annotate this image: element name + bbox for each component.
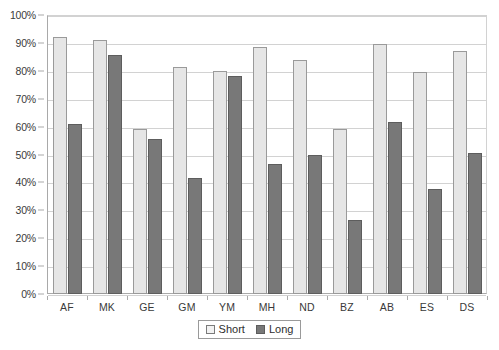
y-tick-label: 30%: [16, 204, 36, 216]
bar-chart: 0%10%20%30%40%50%60%70%80%90%100% AFMKGE…: [0, 0, 499, 350]
x-tick-label-mh: MH: [259, 301, 276, 313]
bar-nd-long[interactable]: [308, 155, 322, 295]
x-tick-mark: [407, 296, 408, 300]
bar-group-ge: [127, 15, 167, 294]
y-tick-label: 100%: [10, 9, 36, 21]
legend: ShortLong: [0, 320, 499, 339]
bar-mk-long[interactable]: [108, 55, 122, 294]
y-tick-label: 20%: [16, 232, 36, 244]
x-tick-mark: [487, 296, 488, 300]
x-tick-mark: [367, 296, 368, 300]
bar-ab-long[interactable]: [388, 122, 402, 294]
y-tick-label: 90%: [16, 37, 36, 49]
legend-swatch-long: [256, 325, 265, 334]
x-tick-mark: [207, 296, 208, 300]
y-tick-label: 60%: [16, 121, 36, 133]
y-tick-label: 10%: [16, 260, 36, 272]
legend-label: Long: [269, 323, 293, 335]
bar-group-nd: [287, 15, 327, 294]
bar-group-mk: [87, 15, 127, 294]
x-tick-mark: [447, 296, 448, 300]
x-tick-mark: [327, 296, 328, 300]
bars-layer: [47, 15, 487, 294]
y-tick-mark: [38, 182, 44, 183]
bar-af-short[interactable]: [53, 37, 67, 294]
x-tick-label-bz: BZ: [340, 301, 354, 313]
y-tick-mark: [38, 238, 44, 239]
legend-label: Short: [219, 323, 245, 335]
y-tick-mark: [38, 42, 44, 43]
y-tick-label: 50%: [16, 149, 36, 161]
x-tick-label-nd: ND: [299, 301, 315, 313]
x-axis: AFMKGEGMYMMHNDBZABESDS: [47, 296, 487, 316]
bar-mh-long[interactable]: [268, 164, 282, 294]
x-tick-label-gm: GM: [178, 301, 195, 313]
bar-ab-short[interactable]: [373, 44, 387, 294]
x-tick-mark: [287, 296, 288, 300]
bar-ds-long[interactable]: [468, 153, 482, 294]
x-tick-label-ab: AB: [380, 301, 394, 313]
x-tick-mark: [87, 296, 88, 300]
bar-ds-short[interactable]: [453, 51, 467, 294]
y-tick-mark: [38, 70, 44, 71]
bar-group-bz: [327, 15, 367, 294]
bar-group-ab: [367, 15, 407, 294]
legend-box: ShortLong: [198, 320, 302, 339]
y-tick-mark: [38, 154, 44, 155]
y-tick-mark: [38, 266, 44, 267]
bar-bz-long[interactable]: [348, 220, 362, 294]
bar-af-long[interactable]: [68, 124, 82, 294]
x-tick-label-ym: YM: [219, 301, 235, 313]
bar-group-gm: [167, 15, 207, 294]
bar-group-ds: [447, 15, 487, 294]
bar-mk-short[interactable]: [93, 40, 107, 294]
x-tick-label-af: AF: [60, 301, 74, 313]
y-tick-mark: [38, 294, 44, 295]
bar-es-short[interactable]: [413, 72, 427, 294]
bar-gm-long[interactable]: [188, 178, 202, 294]
y-tick-mark: [38, 126, 44, 127]
y-tick-mark: [38, 210, 44, 211]
y-tick-label: 80%: [16, 65, 36, 77]
bar-mh-short[interactable]: [253, 47, 267, 294]
y-axis: 0%10%20%30%40%50%60%70%80%90%100%: [0, 0, 47, 310]
y-tick-label: 70%: [16, 93, 36, 105]
y-tick-mark: [38, 15, 44, 16]
legend-entry-short[interactable]: Short: [206, 323, 245, 335]
bar-group-mh: [247, 15, 287, 294]
x-tick-mark: [247, 296, 248, 300]
bar-group-af: [47, 15, 87, 294]
bar-ym-long[interactable]: [228, 76, 242, 294]
x-tick-label-ds: DS: [460, 301, 475, 313]
bar-ge-long[interactable]: [148, 139, 162, 294]
legend-entry-long[interactable]: Long: [256, 323, 293, 335]
x-tick-label-ge: GE: [139, 301, 155, 313]
bar-gm-short[interactable]: [173, 67, 187, 294]
bar-nd-short[interactable]: [293, 60, 307, 294]
x-tick-label-mk: MK: [99, 301, 115, 313]
y-tick-label: 40%: [16, 176, 36, 188]
x-tick-mark: [127, 296, 128, 300]
bar-ym-short[interactable]: [213, 71, 227, 294]
y-tick-label: 0%: [21, 288, 36, 300]
bar-bz-short[interactable]: [333, 129, 347, 294]
y-tick-mark: [38, 98, 44, 99]
x-tick-mark: [167, 296, 168, 300]
bar-ge-short[interactable]: [133, 129, 147, 294]
x-tick-mark: [47, 296, 48, 300]
bar-group-ym: [207, 15, 247, 294]
legend-swatch-short: [206, 325, 215, 334]
bar-group-es: [407, 15, 447, 294]
bar-es-long[interactable]: [428, 189, 442, 294]
x-tick-label-es: ES: [420, 301, 434, 313]
